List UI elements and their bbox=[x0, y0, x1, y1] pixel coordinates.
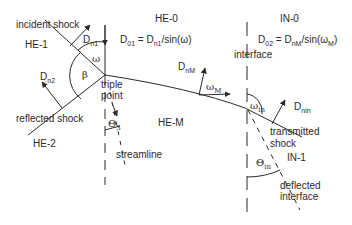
shock-label: shock bbox=[270, 138, 297, 149]
in1-label: IN-1 bbox=[287, 152, 306, 163]
theta3-label: Θ3 bbox=[108, 118, 121, 132]
he1-label: HE-1 bbox=[25, 39, 48, 50]
hem-label: HE-M bbox=[158, 117, 184, 128]
omega-label: ω bbox=[92, 53, 100, 64]
point-label: point bbox=[101, 90, 123, 101]
beta-arc bbox=[70, 52, 81, 99]
dnin-arrow bbox=[272, 100, 285, 124]
incident-shock-label: incident shock bbox=[16, 19, 80, 30]
d01-equation: D01 = Dn1/sin(ω) bbox=[120, 34, 191, 47]
mach-stem-curve bbox=[105, 75, 245, 108]
theta-in-label: Θin bbox=[256, 157, 271, 171]
interface-label: interface bbox=[234, 49, 273, 60]
in0-label: IN-0 bbox=[280, 13, 299, 24]
transmitted-label: transmitted bbox=[270, 126, 319, 137]
deflected-interface-label: interface bbox=[280, 191, 319, 202]
reflected-shock-label: reflected shock bbox=[16, 113, 84, 124]
dnin-label: Dnin bbox=[294, 101, 311, 114]
d02-equation: D02 = DnM/sin(ωM) bbox=[258, 34, 337, 47]
reflected-shock-line bbox=[28, 75, 105, 135]
dnm-arrow bbox=[199, 68, 205, 95]
he0-label: HE-0 bbox=[155, 13, 178, 24]
shock-interaction-diagram: incident shock HE-1 HE-0 IN-0 Dn1 D01 = … bbox=[0, 0, 352, 225]
triple-label: triple bbox=[101, 79, 123, 90]
omega-m-label: ωM bbox=[206, 81, 221, 95]
dnm-label: DnM bbox=[178, 61, 195, 74]
he2-label: HE-2 bbox=[33, 138, 56, 149]
theta-in-arc bbox=[247, 170, 280, 177]
streamline-label: streamline bbox=[116, 149, 163, 160]
deflected-label: deflected bbox=[280, 180, 321, 191]
dn2-arrow bbox=[42, 82, 62, 108]
beta-label: β bbox=[82, 69, 88, 80]
